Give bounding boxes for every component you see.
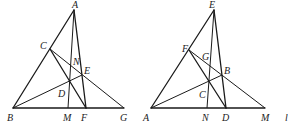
label-E: E (83, 65, 90, 76)
figure-1: A B C N E D M F G (7, 0, 127, 123)
label-C: C (199, 89, 206, 100)
segment-CG (50, 49, 124, 108)
label-D: D (221, 112, 230, 123)
figure-2: E A F G B C N D M (142, 0, 270, 123)
geometry-diagram: A B C N E D M F G E A F G B C N D M l (0, 0, 288, 133)
label-G: G (120, 112, 127, 123)
label-A: A (142, 112, 150, 123)
label-M: M (62, 112, 72, 123)
label-N: N (201, 112, 210, 123)
label-C: C (40, 40, 47, 51)
label-B: B (224, 65, 230, 76)
segment-ED (214, 10, 226, 108)
label-G: G (202, 51, 209, 62)
label-B: B (7, 112, 13, 123)
label-M: M (260, 112, 270, 123)
edge-fragment: l (285, 112, 288, 123)
label-F: F (181, 43, 189, 54)
label-F: F (80, 112, 88, 123)
label-D: D (57, 88, 66, 99)
label-N: N (72, 56, 81, 67)
label-E: E (208, 0, 215, 10)
label-A: A (71, 0, 79, 10)
segment-CF (50, 49, 86, 108)
